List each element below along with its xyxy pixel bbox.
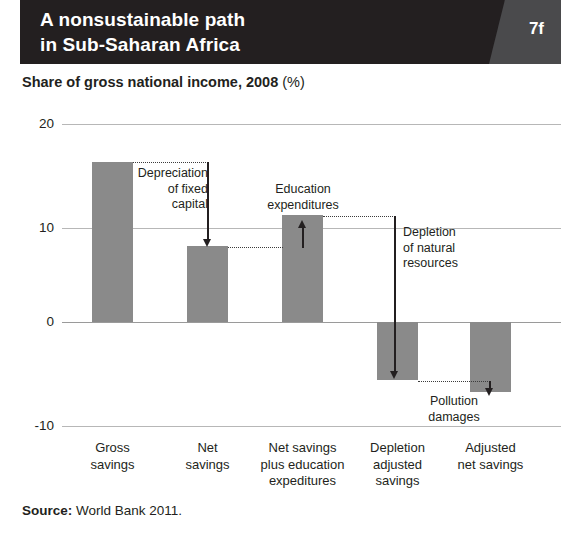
annotation-education-expenditures: Education expenditures <box>242 182 364 213</box>
x-axis-label-gross-savings: Gross savings <box>62 440 163 473</box>
arrow-depletion-line <box>394 216 396 372</box>
x-axis-label-net-savings-plus-education-expeditures: Net savings plus education expeditures <box>248 440 357 490</box>
leader-line-depletion-adjusted-bottom <box>418 381 490 382</box>
source-note: Source: World Bank 2011. <box>22 503 182 518</box>
arrow-depletion-head-icon <box>390 371 398 379</box>
y-axis-tick--10: -10 <box>8 418 54 433</box>
leader-line-gross-savings-top <box>133 162 208 163</box>
gridline-20 <box>62 124 561 125</box>
arrow-education-head-icon <box>298 220 306 228</box>
x-axis-label-net-savings: Net savings <box>157 440 258 473</box>
arrow-depreciation-line <box>207 162 209 240</box>
annotation-depreciation-of-fixed-capital: Depreciation of fixed capital <box>118 166 208 213</box>
source-text: World Bank 2011. <box>72 503 182 518</box>
x-axis-label-adjusted-net-savings: Adjusted net savings <box>437 440 544 473</box>
bar-net-savings <box>187 246 228 322</box>
y-axis-tick-10: 10 <box>8 220 54 235</box>
source-label: Source: <box>22 503 72 518</box>
arrow-education-line <box>302 228 304 248</box>
chart-plot-area: 20 10 0 -10 Depreciation of fixed capita… <box>0 0 575 535</box>
gridline--10 <box>62 426 561 427</box>
leader-line-net-savings-plus-education-top <box>323 216 395 217</box>
annotation-pollution-damages: Pollution damages <box>400 394 508 425</box>
y-axis-tick-0: 0 <box>8 314 54 329</box>
arrow-depreciation-head-icon <box>203 239 211 247</box>
figure-7f: A nonsustainable path in Sub-Saharan Afr… <box>0 0 575 535</box>
annotation-depletion-of-natural-resources: Depletion of natural resources <box>403 225 513 272</box>
leader-line-net-savings-top <box>228 247 283 248</box>
y-axis-tick-20: 20 <box>8 116 54 131</box>
x-axis-label-depletion-adjusted-savings: Depletion adjusted savings <box>347 440 448 490</box>
